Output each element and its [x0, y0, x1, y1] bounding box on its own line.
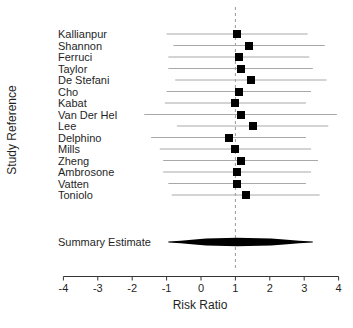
x-tick-label: 1 — [232, 282, 238, 294]
forest-plot-figure: KallianpurShannonFerruciTaylorDe Stefani… — [0, 0, 353, 328]
summary-estimate-layer: Summary Estimate — [58, 236, 313, 248]
study-label: Lee — [58, 120, 76, 132]
x-axis-title: Risk Ratio — [173, 298, 228, 312]
estimate-marker — [235, 88, 243, 96]
study-label: Van Der Hel — [58, 109, 117, 121]
study-label: De Stefani — [58, 74, 109, 86]
estimate-marker — [225, 134, 233, 142]
study-label: Zheng — [58, 155, 89, 167]
study-label: Kabat — [58, 97, 87, 109]
study-label: Ferruci — [58, 51, 92, 63]
estimate-marker — [237, 157, 245, 165]
x-tick-label: 0 — [198, 282, 204, 294]
x-tick-label: 3 — [301, 282, 307, 294]
y-axis-title: Study Reference — [5, 85, 19, 175]
x-tick-label: -1 — [162, 282, 172, 294]
x-tick-label: 4 — [336, 282, 342, 294]
study-label: Cho — [58, 86, 78, 98]
study-label: Kallianpur — [58, 28, 107, 40]
study-label: Vatten — [58, 178, 89, 190]
estimate-marker — [231, 99, 239, 107]
estimate-marker — [249, 122, 257, 130]
x-tick-label: -4 — [59, 282, 69, 294]
study-label: Taylor — [58, 63, 88, 75]
estimate-marker — [245, 42, 253, 50]
estimate-marker — [242, 191, 250, 199]
study-label-layer: KallianpurShannonFerruciTaylorDe Stefani… — [58, 28, 117, 201]
x-tick-label: -2 — [127, 282, 137, 294]
forest-plot-canvas: KallianpurShannonFerruciTaylorDe Stefani… — [0, 0, 353, 328]
summary-estimate-label: Summary Estimate — [58, 236, 151, 248]
estimate-marker — [233, 30, 241, 38]
x-axis-layer: -4-3-2-101234 — [59, 277, 342, 295]
study-label: Ambrosone — [58, 166, 114, 178]
estimate-marker — [237, 65, 245, 73]
summary-estimate-polygon — [168, 238, 312, 246]
estimate-marker — [247, 76, 255, 84]
x-tick-label: -3 — [93, 282, 103, 294]
study-label: Shannon — [58, 40, 102, 52]
estimate-marker — [233, 168, 241, 176]
x-tick-label: 2 — [267, 282, 273, 294]
estimate-marker — [237, 111, 245, 119]
estimate-marker — [231, 145, 239, 153]
estimate-marker — [233, 180, 241, 188]
study-label: Toniolo — [58, 189, 93, 201]
study-label: Mills — [58, 143, 80, 155]
estimate-marker — [235, 53, 243, 61]
study-label: Delphino — [58, 132, 101, 144]
